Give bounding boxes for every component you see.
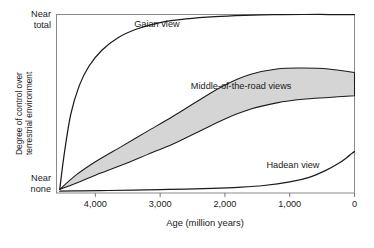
x-axis-title: Age (million years) <box>166 217 244 228</box>
y-tick-label-near-total-line1: Near <box>31 9 51 19</box>
x-tick-label-2000: 2,000 <box>213 199 236 209</box>
y-tick-label-near-none-line1: Near <box>31 173 51 183</box>
chart-plot-area: 4,000 3,000 2,000 1,000 0 Age (million y… <box>0 0 374 248</box>
chart-figure: 4,000 3,000 2,000 1,000 0 Age (million y… <box>0 0 374 248</box>
x-tick-label-0: 0 <box>352 199 357 209</box>
x-tick-label-4000: 4,000 <box>84 199 107 209</box>
x-axis-ticks <box>95 193 354 197</box>
annotation-gaian-view: Gaian view <box>134 19 180 29</box>
annotation-hadean-view: Hadean view <box>266 160 319 170</box>
annotation-middle-of-the-road-views: Middle-of-the-road views <box>191 81 292 91</box>
y-axis-title-line1: Degree of control over <box>14 72 24 155</box>
y-axis-title-line2: terrestrial environment <box>24 71 34 155</box>
y-tick-label-near-none-line2: none <box>31 184 51 194</box>
y-tick-label-near-total-line2: total <box>34 20 51 30</box>
x-tick-label-3000: 3,000 <box>149 199 172 209</box>
x-tick-label-1000: 1,000 <box>278 199 301 209</box>
